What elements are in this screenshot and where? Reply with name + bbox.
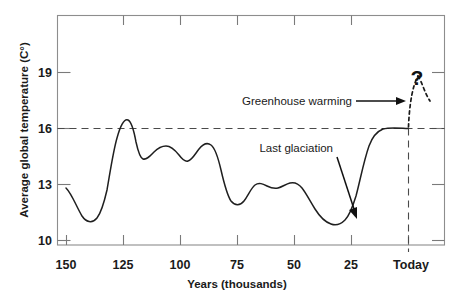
y-axis-ticks	[58, 73, 71, 241]
x-tick-label-50: 50	[287, 258, 301, 272]
y-tick-label-13: 13	[38, 178, 52, 192]
y-axis-title: Average global temperature (C°)	[18, 42, 30, 218]
last-glaciation-label: Last glaciation	[259, 142, 333, 154]
plot-frame	[58, 16, 445, 246]
x-tick-label-125: 125	[113, 258, 134, 272]
greenhouse-warming-label: Greenhouse warming	[242, 95, 352, 107]
x-axis-tick-labels: 150 125 100 75 50 25 Today	[56, 258, 429, 272]
x-tick-label-25: 25	[344, 258, 358, 272]
greenhouse-warming-arrow	[356, 97, 406, 105]
x-tick-label-today: Today	[393, 258, 429, 272]
x-tick-label-150: 150	[56, 258, 77, 272]
temperature-history-chart: ? Greenhouse warming Last glaciation 19 …	[0, 0, 463, 300]
x-axis-top-ticks	[124, 16, 352, 26]
y-tick-label-16: 16	[38, 122, 52, 136]
x-axis-title: Years (thousands)	[187, 278, 287, 290]
y-tick-label-19: 19	[38, 66, 52, 80]
question-mark-label: ?	[411, 66, 424, 89]
y-axis-right-ticks	[432, 73, 445, 241]
y-tick-label-10: 10	[38, 234, 52, 248]
last-glaciation-arrow	[337, 157, 357, 219]
climate-temperature-figure: ? Greenhouse warming Last glaciation 19 …	[0, 0, 463, 300]
x-tick-label-100: 100	[170, 258, 191, 272]
x-tick-label-75: 75	[230, 258, 244, 272]
x-axis-ticks	[67, 235, 409, 245]
y-axis-tick-labels: 19 16 13 10	[38, 66, 52, 248]
